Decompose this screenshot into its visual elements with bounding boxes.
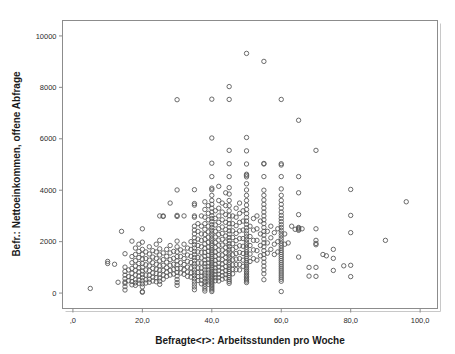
y-axis-title: Befr.: Nettoeinkommen, offene Abfrage — [11, 71, 22, 257]
data-point — [279, 187, 283, 191]
data-point — [203, 200, 207, 204]
data-point — [175, 283, 179, 287]
data-point — [244, 188, 248, 192]
data-point — [262, 198, 266, 202]
data-point — [210, 136, 214, 140]
plot-frame — [63, 21, 441, 312]
data-point — [262, 193, 266, 197]
data-point — [307, 265, 311, 269]
data-point — [192, 288, 196, 292]
data-point — [175, 98, 179, 102]
data-point — [269, 224, 273, 228]
data-point — [262, 174, 266, 178]
data-point — [112, 262, 116, 266]
data-point — [348, 187, 352, 191]
y-tick-label: 0 — [52, 289, 56, 298]
data-point — [314, 227, 318, 231]
data-point — [88, 286, 92, 290]
data-point — [279, 289, 283, 293]
data-point — [272, 230, 276, 234]
data-point — [244, 51, 248, 55]
data-point — [203, 207, 207, 211]
data-point — [158, 247, 162, 251]
y-tick-label: 10000 — [36, 32, 57, 41]
data-point — [164, 247, 168, 251]
data-point — [383, 238, 387, 242]
data-point — [168, 201, 172, 205]
data-point — [262, 188, 266, 192]
data-point — [182, 242, 186, 246]
data-point — [227, 97, 231, 101]
data-point — [140, 240, 144, 244]
data-point — [175, 188, 179, 192]
data-point — [279, 97, 283, 101]
y-tick-label: 2000 — [40, 237, 57, 246]
data-point — [331, 256, 335, 260]
data-point — [116, 280, 120, 284]
data-point — [262, 278, 266, 282]
data-point — [227, 162, 231, 166]
y-tick-label: 4000 — [40, 186, 57, 195]
data-point — [210, 161, 214, 165]
data-point — [217, 184, 221, 188]
data-point — [296, 174, 300, 178]
data-point — [210, 193, 214, 197]
data-point — [269, 247, 273, 251]
data-point — [342, 264, 346, 268]
data-point — [227, 148, 231, 152]
data-point — [227, 198, 231, 202]
x-tick-label: 60,0 — [274, 316, 289, 325]
data-point — [348, 274, 352, 278]
data-point — [348, 230, 352, 234]
scatter-plot-figure: 0200040006000800010000 ,020,040,060,080,… — [0, 0, 455, 354]
data-point — [296, 255, 300, 259]
data-point — [192, 188, 196, 192]
data-point — [217, 206, 221, 210]
data-point — [314, 265, 318, 269]
data-point — [158, 282, 162, 286]
data-point — [119, 229, 123, 233]
plot-canvas: 0200040006000800010000 ,020,040,060,080,… — [0, 0, 455, 354]
data-point — [123, 252, 127, 256]
data-point — [348, 263, 352, 267]
x-axis-ticks: ,020,040,060,080,0100,0 — [70, 309, 430, 325]
data-point — [244, 135, 248, 139]
x-axis-title: Befragte<r>: Arbeitsstunden pro Woche — [155, 335, 345, 346]
data-point — [234, 206, 238, 210]
data-point — [158, 238, 162, 242]
data-point — [130, 239, 134, 243]
data-point — [244, 193, 248, 197]
data-point — [244, 203, 248, 207]
data-point — [210, 97, 214, 101]
data-point — [269, 236, 273, 240]
data-point — [227, 174, 231, 178]
data-point — [331, 247, 335, 251]
data-point — [175, 239, 179, 243]
data-point — [262, 59, 266, 63]
x-tick-label: 40,0 — [205, 316, 220, 325]
data-point — [279, 174, 283, 178]
data-point — [404, 200, 408, 204]
data-point — [244, 162, 248, 166]
data-point — [244, 149, 248, 153]
x-tick-label: 80,0 — [343, 316, 358, 325]
data-point — [296, 118, 300, 122]
x-tick-label: 100,0 — [411, 316, 430, 325]
x-tick-label: 20,0 — [135, 316, 150, 325]
data-point — [217, 214, 221, 218]
data-point — [314, 274, 318, 278]
data-point — [237, 201, 241, 205]
data-point — [307, 274, 311, 278]
y-tick-label: 8000 — [40, 83, 57, 92]
data-point — [348, 213, 352, 217]
data-point — [182, 214, 186, 218]
data-point — [296, 191, 300, 195]
data-point — [140, 285, 144, 289]
data-point — [331, 268, 335, 272]
data-point — [244, 182, 248, 186]
y-tick-label: 6000 — [40, 134, 57, 143]
data-point — [227, 185, 231, 189]
y-axis-ticks: 0200040006000800010000 — [36, 32, 63, 298]
data-point — [227, 84, 231, 88]
data-point — [244, 198, 248, 202]
